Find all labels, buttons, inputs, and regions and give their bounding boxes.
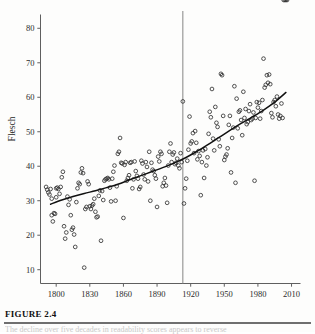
data-point (122, 216, 126, 220)
data-point (82, 266, 86, 270)
data-point (252, 111, 256, 115)
data-point (226, 146, 230, 150)
data-point (50, 197, 54, 201)
data-point (67, 203, 71, 207)
x-tick-label: 1860 (115, 289, 132, 299)
data-point (150, 161, 154, 165)
data-point (240, 133, 244, 137)
x-tick-label: 1890 (149, 289, 166, 299)
y-tick-label: 60 (26, 92, 35, 102)
data-point (191, 131, 195, 135)
data-point (62, 224, 66, 228)
data-point (58, 192, 62, 196)
data-point-group (44, 0, 289, 269)
data-point (114, 199, 118, 203)
data-point (199, 193, 203, 197)
data-point (248, 102, 252, 106)
data-point (54, 195, 58, 199)
data-point (215, 121, 219, 125)
data-point (187, 148, 191, 152)
data-point (169, 142, 173, 146)
y-axis-title: Flesch (7, 116, 17, 141)
data-point (188, 115, 192, 119)
y-axis-ticks: 1020304050607080 (26, 23, 41, 274)
data-point (193, 129, 197, 133)
data-point (229, 171, 233, 175)
data-point (155, 205, 159, 209)
y-tick-label: 80 (26, 23, 35, 33)
data-point (97, 194, 101, 198)
data-point (247, 109, 251, 113)
data-point (208, 110, 212, 114)
x-tick-label: 1950 (216, 289, 233, 299)
data-point (206, 155, 210, 159)
data-point (145, 165, 149, 169)
data-point (73, 245, 77, 249)
data-point (258, 117, 262, 121)
data-point (271, 115, 275, 119)
data-point (92, 197, 96, 201)
data-point (274, 104, 278, 108)
y-tick-label: 10 (26, 265, 35, 275)
data-point (253, 179, 257, 183)
data-point (134, 169, 138, 173)
data-point (80, 166, 84, 170)
data-point (72, 233, 76, 237)
data-point (63, 237, 67, 241)
x-tick-label: 1920 (182, 289, 199, 299)
data-point (262, 57, 266, 61)
data-point (175, 157, 179, 161)
x-tick-label: 1980 (249, 289, 266, 299)
data-point (221, 114, 225, 118)
data-point (118, 136, 122, 140)
figure-number-label: FIGURE 2.4 (5, 309, 57, 319)
data-point (196, 158, 200, 162)
data-point (163, 176, 167, 180)
data-point (75, 200, 79, 204)
data-point (94, 210, 98, 214)
chart-svg-canvas: 1020304050607080 18001830186018901920195… (0, 0, 315, 300)
data-point (131, 186, 135, 190)
data-point (275, 95, 279, 99)
data-point (235, 97, 239, 101)
data-point (207, 132, 211, 136)
data-point (156, 155, 160, 159)
data-point (148, 199, 152, 203)
data-point (111, 170, 115, 174)
data-point (184, 177, 188, 181)
axis-frame (41, 15, 301, 284)
data-point (60, 175, 64, 179)
scatter-plot-chart: 1020304050607080 18001830186018901920195… (0, 0, 315, 300)
x-axis-ticks: 18001830186018901920195019802010 (48, 284, 300, 299)
trend-curve (51, 92, 286, 204)
data-point (61, 170, 65, 174)
data-point (202, 176, 206, 180)
data-point (185, 159, 189, 163)
data-point (76, 186, 80, 190)
data-point (165, 201, 169, 205)
data-point (205, 164, 209, 168)
data-point (209, 115, 213, 119)
data-point (146, 180, 150, 184)
data-point (267, 73, 271, 77)
data-point (241, 90, 245, 94)
data-point (147, 150, 151, 154)
figure-caption-text: The decline over five decades in readabi… (5, 325, 310, 334)
data-point (230, 136, 234, 140)
x-tick-label: 1830 (81, 289, 98, 299)
data-point (109, 200, 113, 204)
data-point (69, 213, 73, 217)
data-point (233, 84, 237, 88)
x-tick-label: 2010 (283, 289, 300, 299)
data-point (213, 105, 217, 109)
y-tick-label: 30 (26, 196, 35, 206)
data-point (210, 87, 214, 91)
data-point (256, 106, 260, 110)
y-tick-label: 70 (26, 58, 35, 68)
y-tick-label: 50 (26, 127, 35, 137)
data-point (257, 101, 261, 105)
data-point (234, 181, 238, 185)
data-point (51, 220, 55, 224)
y-tick-label: 40 (26, 161, 35, 171)
